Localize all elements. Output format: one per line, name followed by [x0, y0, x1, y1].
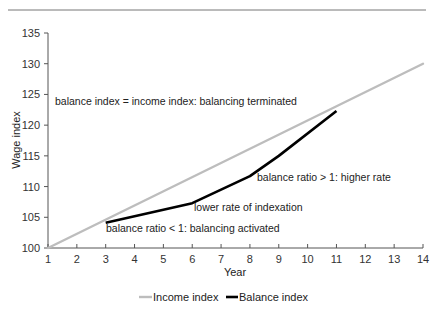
y-tick-label: 105 — [22, 211, 40, 223]
x-ticks: 1234567891011121314 — [45, 244, 429, 265]
y-axis-title: Wage index — [10, 111, 22, 169]
legend-label-income: Income index — [153, 291, 219, 303]
x-tick-label: 13 — [388, 253, 400, 265]
y-tick-label: 115 — [22, 150, 40, 162]
x-tick-label: 4 — [131, 253, 137, 265]
annotation-terminated: balance index = income index: balancing … — [55, 95, 297, 107]
x-tick-label: 12 — [359, 253, 371, 265]
y-tick-label: 135 — [22, 27, 40, 39]
annotation-activated: balance ratio < 1: balancing activated — [106, 222, 280, 234]
y-tick-label: 130 — [22, 58, 40, 70]
x-tick-label: 2 — [74, 253, 80, 265]
income-index-line — [48, 64, 423, 248]
y-ticks: 100105110115120125130135 — [22, 27, 48, 254]
legend: Income index Balance index — [139, 291, 309, 303]
y-tick-label: 100 — [22, 242, 40, 254]
x-tick-label: 7 — [218, 253, 224, 265]
legend-label-balance: Balance index — [239, 291, 309, 303]
annotation-higher-rate: balance ratio > 1: higher rate — [257, 171, 391, 183]
annotation-lower-rate: lower rate of indexation — [194, 201, 303, 213]
x-tick-label: 1 — [45, 253, 51, 265]
x-tick-label: 8 — [247, 253, 253, 265]
x-tick-label: 5 — [160, 253, 166, 265]
x-axis-title: Year — [224, 266, 247, 278]
y-tick-label: 110 — [22, 181, 40, 193]
x-tick-label: 3 — [103, 253, 109, 265]
wage-index-chart: 100105110115120125130135 123456789101112… — [0, 0, 438, 310]
x-tick-label: 9 — [276, 253, 282, 265]
x-tick-label: 10 — [301, 253, 313, 265]
x-tick-label: 6 — [189, 253, 195, 265]
x-tick-label: 11 — [331, 253, 342, 265]
y-tick-label: 120 — [22, 119, 40, 131]
y-tick-label: 125 — [22, 88, 40, 100]
x-tick-label: 14 — [417, 253, 429, 265]
